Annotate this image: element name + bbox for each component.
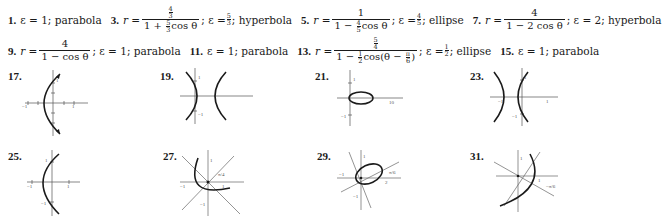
answers-row-1: 1. ε = 1; parabola 3. r = 43 1 + 53cos θ… (8, 6, 666, 33)
fraction: 54 1 − 12cos(θ − π6) (334, 37, 417, 64)
graph-19: 1 −1 (178, 66, 258, 126)
svg-text:π/6: π/6 (389, 170, 396, 175)
answer-15: 15. ε = 1; parabola (500, 45, 599, 57)
svg-text:1: 1 (72, 104, 75, 109)
graph-label-23: 23. (470, 70, 484, 82)
svg-text:π/4: π/4 (218, 172, 225, 177)
svg-text:−1: −1 (341, 114, 347, 119)
graph-23: −1 1 1 −1 (488, 66, 563, 128)
answer-9: 9. r = 4 1 − cos θ ; ε = 1; parabola (8, 38, 181, 63)
graph-label-19: 19. (160, 70, 174, 82)
svg-text:−1: −1 (512, 114, 518, 119)
svg-text:−1: −1 (200, 202, 206, 207)
svg-text:−1: −1 (22, 104, 28, 109)
svg-text:−1: −1 (41, 201, 47, 206)
fraction: 4 1 − cos θ (39, 38, 90, 63)
svg-text:−1: −1 (498, 99, 504, 104)
graph-25: −1 1 1 −1 (25, 148, 85, 218)
svg-text:1: 1 (524, 75, 527, 80)
answer-5: 5. r = 1 1 − 45cos θ ; ε = 45 ; ellipse (301, 7, 464, 33)
answer-1: 1. ε = 1; parabola (8, 14, 102, 26)
graph-label-31: 31. (470, 150, 484, 162)
svg-text:−1: −1 (353, 194, 359, 199)
svg-text:10: 10 (389, 100, 395, 105)
fraction: 43 1 + 53cos θ (142, 6, 199, 33)
svg-text:1: 1 (520, 156, 523, 161)
svg-text:−π/6: −π/6 (546, 184, 556, 189)
answer-11: 11. ε = 1; parabola (190, 45, 289, 57)
svg-text:−1: −1 (339, 172, 345, 177)
svg-text:1: 1 (546, 99, 549, 104)
fraction: 1 1 − 45cos θ (332, 7, 389, 33)
graph-21: 1 −1 10 (335, 68, 410, 128)
graph-27: −1 1 1 −1 π/4 (178, 148, 248, 218)
svg-text:1: 1 (538, 178, 541, 183)
graph-31: 1 1 −π/6 (488, 148, 563, 216)
graph-29: −1 2 1 −1 π/6 (335, 148, 405, 213)
graph-label-27: 27. (163, 150, 177, 162)
svg-text:1: 1 (353, 77, 356, 82)
svg-text:1: 1 (363, 154, 366, 159)
svg-text:1: 1 (45, 158, 48, 163)
svg-text:1: 1 (210, 158, 213, 163)
fraction: 4 1 − 2 cos θ (504, 7, 565, 32)
graph-label-25: 25. (8, 150, 22, 162)
answer-7: 7. r = 4 1 − 2 cos θ ; ε = 2; hyperbola (473, 7, 662, 32)
answers-row-2: 9. r = 4 1 − cos θ ; ε = 1; parabola 11.… (8, 37, 608, 64)
svg-text:1: 1 (56, 78, 59, 83)
svg-text:2: 2 (385, 180, 388, 185)
graph-label-29: 29. (317, 150, 331, 162)
graph-label-21: 21. (315, 70, 329, 82)
svg-text:−1: −1 (180, 184, 186, 189)
answer-13: 13. r = 54 1 − 12cos(θ − π6) ; ε = 12 ; … (297, 37, 491, 64)
svg-text:1: 1 (67, 184, 70, 189)
svg-text:−1: −1 (27, 184, 33, 189)
graph-17: −1 1 1 (20, 68, 95, 138)
svg-text:1: 1 (198, 75, 201, 80)
answer-3: 3. r = 43 1 + 53cos θ ; ε = 53 ; hyperbo… (111, 6, 292, 33)
svg-text:−1: −1 (198, 112, 204, 117)
